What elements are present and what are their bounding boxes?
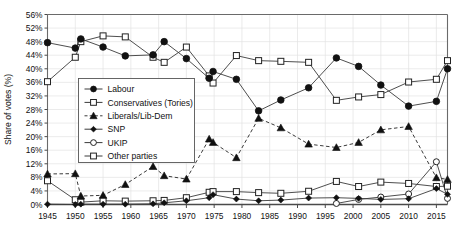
data-point-marker [305, 84, 312, 91]
y-tick-label: 16% [26, 145, 43, 155]
data-point-marker [150, 52, 157, 59]
data-point-marker [433, 76, 439, 82]
y-tick-label: 0% [30, 200, 43, 210]
data-point-marker [256, 58, 262, 64]
data-point-marker [72, 54, 78, 60]
data-point-marker [183, 55, 190, 62]
data-point-marker [44, 39, 51, 46]
data-point-marker [278, 97, 285, 104]
x-tick-label: 1970 [177, 211, 196, 221]
x-tick-label: 1945 [38, 211, 57, 221]
data-point-marker [306, 59, 312, 65]
data-point-marker [355, 63, 362, 70]
data-point-marker [356, 184, 362, 190]
x-tick-label: 2000 [344, 211, 363, 221]
data-point-marker [278, 190, 284, 196]
legend-item-label: Labour [108, 84, 135, 94]
data-point-marker [161, 38, 168, 45]
x-tick-label: 1955 [94, 211, 113, 221]
x-tick-label: 1960 [122, 211, 141, 221]
data-point-marker [233, 53, 239, 59]
data-point-marker [100, 44, 107, 51]
data-point-marker [72, 45, 79, 52]
chart-legend: LabourConservatives (Tories)Liberals/Lib… [79, 79, 195, 163]
data-point-marker [161, 59, 167, 65]
y-tick-label: 8% [30, 172, 43, 182]
y-tick-label: 52% [26, 23, 43, 33]
data-point-marker [278, 58, 284, 64]
data-point-marker [256, 190, 262, 196]
data-point-marker [356, 94, 362, 100]
data-point-marker [378, 179, 384, 185]
legend-item-label: Other parties [108, 151, 158, 161]
y-axis-title-text: Share of votes (%) [3, 74, 13, 145]
data-point-marker [255, 108, 262, 115]
data-point-marker [78, 36, 85, 43]
legend-item-label: Liberals/Lib-Dem [108, 111, 173, 121]
y-tick-label: 28% [26, 105, 43, 115]
y-tick-label: 48% [26, 37, 43, 47]
data-point-marker [100, 33, 106, 39]
x-tick-label: 2005 [372, 211, 391, 221]
data-point-marker [445, 58, 451, 64]
data-point-marker [183, 44, 189, 50]
data-point-marker [91, 100, 97, 106]
x-tick-label: 1965 [149, 211, 168, 221]
data-point-marker [306, 188, 312, 194]
y-tick-label: 56% [26, 10, 43, 20]
x-tick-label: 1995 [316, 211, 335, 221]
data-point-marker [206, 75, 213, 82]
data-point-marker [378, 92, 384, 98]
data-point-marker [433, 98, 440, 105]
y-tick-label: 20% [26, 132, 43, 142]
data-point-marker [333, 55, 340, 62]
y-tick-label: 32% [26, 91, 43, 101]
data-point-marker [333, 97, 339, 103]
data-point-marker [45, 178, 51, 184]
data-point-marker [333, 178, 339, 184]
data-point-marker [233, 189, 239, 195]
data-point-marker [378, 82, 385, 89]
data-point-marker [444, 65, 451, 72]
data-point-marker [122, 53, 129, 60]
data-point-marker [445, 183, 451, 189]
y-tick-label: 12% [26, 159, 43, 169]
y-tick-label: 40% [26, 64, 43, 74]
data-point-marker [91, 153, 97, 159]
x-tick-label: 1975 [205, 211, 224, 221]
y-tick-label: 44% [26, 50, 43, 60]
data-point-marker [45, 79, 51, 85]
chart-canvas: 0%4%8%12%16%20%24%28%32%36%40%44%48%52%5… [0, 0, 471, 234]
legend-item-label: UKIP [108, 138, 128, 148]
x-tick-label: 2010 [399, 211, 418, 221]
x-tick-label: 1950 [66, 211, 85, 221]
x-axis-ticks: 1945195019551960196519701975198019851990… [38, 205, 446, 221]
data-point-marker [406, 180, 412, 186]
y-tick-label: 24% [26, 118, 43, 128]
data-point-marker [406, 79, 412, 85]
y-tick-label: 36% [26, 77, 43, 87]
y-tick-label: 4% [30, 186, 43, 196]
data-point-marker [210, 68, 217, 75]
data-point-marker [405, 103, 412, 110]
legend-item-label: SNP [108, 124, 126, 134]
x-tick-label: 2015 [427, 211, 446, 221]
y-axis-title: Share of votes (%) [3, 74, 13, 145]
vote-share-line-chart: 0%4%8%12%16%20%24%28%32%36%40%44%48%52%5… [0, 0, 471, 234]
legend-item-label: Conservatives (Tories) [108, 98, 194, 108]
x-tick-label: 1980 [233, 211, 252, 221]
data-point-marker [433, 159, 439, 165]
data-point-marker [91, 86, 97, 92]
x-tick-label: 1985 [260, 211, 279, 221]
data-point-marker [91, 140, 97, 146]
data-point-marker [233, 76, 240, 83]
data-point-marker [122, 34, 128, 40]
data-point-marker [333, 200, 339, 206]
x-tick-label: 1990 [288, 211, 307, 221]
